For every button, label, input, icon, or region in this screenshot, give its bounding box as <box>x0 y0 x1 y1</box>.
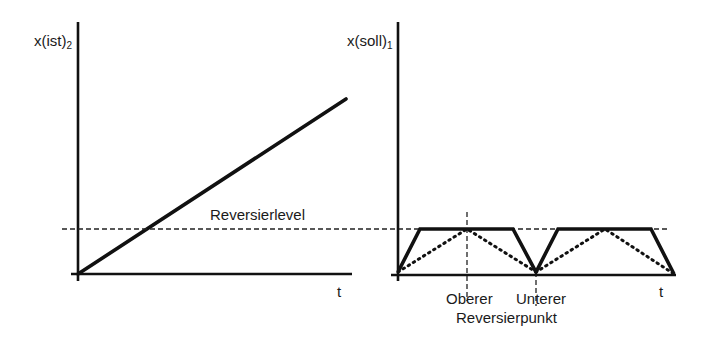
right-x-axis-label: t <box>659 284 663 299</box>
left-axes <box>71 22 352 281</box>
left-x-axis-label: t <box>337 284 341 299</box>
right-y-axis-label: x(soll)1 <box>347 33 393 51</box>
dotted-triangle-series <box>398 229 674 274</box>
reversal-point-caption: Reversierpunkt <box>456 310 557 325</box>
upper-reversal-label: Oberer <box>446 291 493 306</box>
lower-reversal-label: Unterer <box>516 291 566 306</box>
left-y-axis-label: x(ist)2 <box>34 33 72 51</box>
right-y-label-subscript: 1 <box>387 40 393 51</box>
right-axes <box>391 22 676 281</box>
left-y-label-text: x(ist) <box>34 32 67 49</box>
trapezoid-series <box>398 229 674 274</box>
left-rising-line <box>78 99 346 274</box>
right-y-label-text: x(soll) <box>347 32 387 49</box>
reversal-level-label: Reversierlevel <box>210 207 305 222</box>
left-y-label-subscript: 2 <box>67 40 73 51</box>
